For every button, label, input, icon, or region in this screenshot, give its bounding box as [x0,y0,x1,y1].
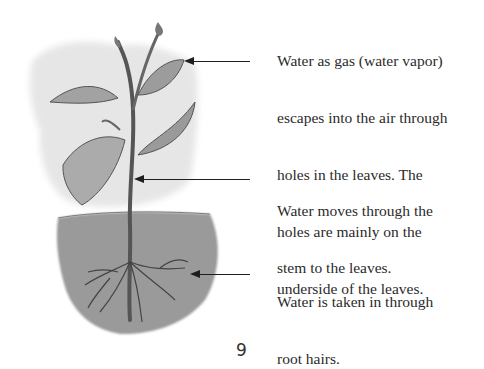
label-line: Water as gas (water vapor) [277,51,447,70]
arrowhead-stem [134,175,144,183]
plant-drawing [0,0,260,369]
arrowhead-leaves [184,57,194,65]
plant-illustration [0,0,260,369]
arrow-stem [140,179,250,180]
arrow-leaves [190,61,250,62]
arrow-roots [196,274,250,275]
arrowhead-roots [190,270,200,278]
label-line: escapes into the air through [277,108,447,127]
label-line: Water moves through the [277,201,433,220]
label-line: Water is taken in through [277,292,433,311]
page-number: 9 [236,340,247,360]
label-roots: Water is taken in through root hairs. [277,254,433,369]
label-line: root hairs. [277,349,433,368]
